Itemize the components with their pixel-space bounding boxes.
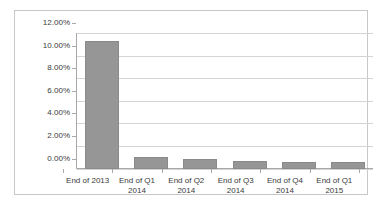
x-axis-tick-mark: [310, 169, 311, 173]
x-axis-tick-label: End of Q42014: [260, 176, 309, 196]
x-axis-tick-label-line: End of Q1: [112, 176, 161, 186]
x-axis-tick-label-line: 2014: [162, 186, 211, 196]
bar: [233, 161, 267, 168]
y-axis-tick-mark: [72, 159, 76, 160]
y-axis-tick-label: 6.00%: [47, 87, 70, 95]
bar-chart: 0.00%2.00%4.00%6.00%8.00%10.00%12.00% En…: [0, 0, 380, 209]
x-axis-tick-label: End of Q12014: [112, 176, 161, 196]
y-axis-tick-mark: [72, 113, 76, 114]
chart-frame: 0.00%2.00%4.00%6.00%8.00%10.00%12.00% En…: [14, 10, 368, 195]
x-axis-tick-label-line: 2014: [211, 186, 260, 196]
y-axis-tick-label: 12.00%: [43, 19, 70, 27]
x-axis-tick-label-line: 2014: [260, 186, 309, 196]
x-axis-tick-label: End of 2013: [63, 176, 112, 186]
x-axis-tick-label: End of Q12015: [310, 176, 359, 196]
y-axis-tick-mark: [72, 68, 76, 69]
x-axis-tick-mark: [359, 169, 360, 173]
x-axis-tick-mark: [260, 169, 261, 173]
bar: [282, 162, 316, 168]
x-axis-tick-label: End of Q32014: [211, 176, 260, 196]
y-axis-tick-label: 10.00%: [43, 42, 70, 50]
bars-layer: [77, 33, 373, 169]
y-axis-tick-label: 2.00%: [47, 132, 70, 140]
x-axis-tick-label-line: End of Q4: [260, 176, 309, 186]
y-axis-tick-mark: [72, 136, 76, 137]
x-axis-tick-label-line: End of Q2: [162, 176, 211, 186]
bar: [134, 157, 168, 168]
y-axis-labels: 0.00%2.00%4.00%6.00%8.00%10.00%12.00%: [15, 11, 70, 196]
y-axis-tick-label: 4.00%: [47, 109, 70, 117]
x-axis-tick-label-line: End of Q1: [310, 176, 359, 186]
y-axis-tick-mark: [72, 23, 76, 24]
bar: [183, 159, 217, 168]
y-axis-tick-mark: [72, 91, 76, 92]
y-axis-tick-label: 0.00%: [47, 155, 70, 163]
x-axis-tick-mark: [162, 169, 163, 173]
x-axis-tick-mark: [112, 169, 113, 173]
x-axis-tick-label: End of Q22014: [162, 176, 211, 196]
x-axis-tick-label-line: 2015: [310, 186, 359, 196]
y-axis-tick-mark: [72, 46, 76, 47]
x-axis-tick-label-line: End of 2013: [63, 176, 112, 186]
bar: [331, 162, 365, 169]
x-axis-tick-mark: [63, 169, 64, 173]
bar: [85, 41, 119, 169]
x-axis-tick-label-line: 2014: [112, 186, 161, 196]
y-axis-tick-label: 8.00%: [47, 64, 70, 72]
x-axis-tick-mark: [211, 169, 212, 173]
x-axis-tick-label-line: End of Q3: [211, 176, 260, 186]
